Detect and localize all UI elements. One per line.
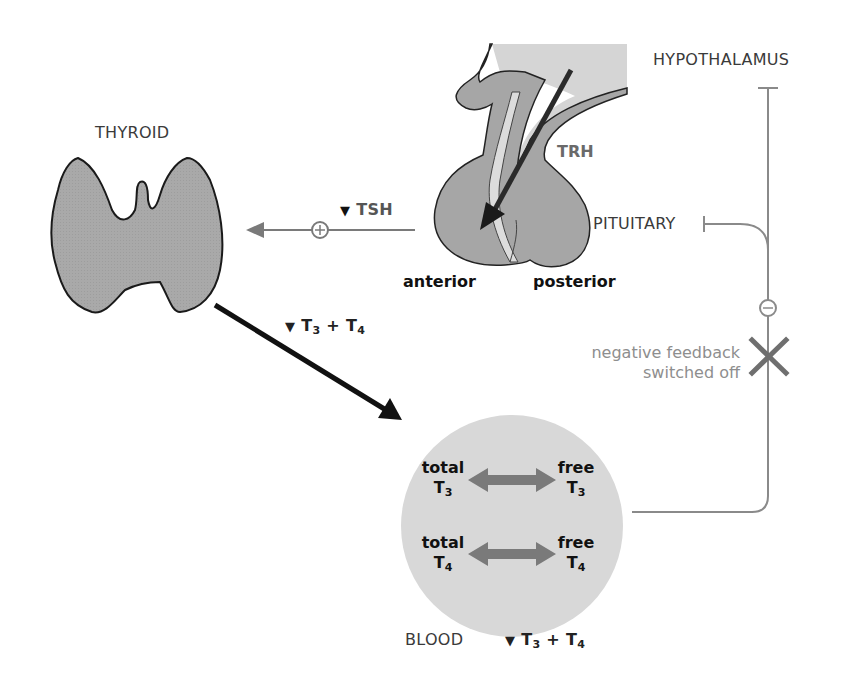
- posterior-label: posterior: [533, 274, 616, 290]
- feedback-line2: switched off: [540, 363, 740, 383]
- blood-level-label: ▼T3 + T4: [505, 632, 585, 650]
- tsh-label: ▼TSH: [340, 202, 393, 218]
- inhibition-symbol: [760, 300, 776, 316]
- thyroid-label: THYROID: [95, 125, 169, 141]
- blood-compartment: [401, 415, 623, 637]
- free-t4-label: freeT4: [554, 533, 598, 578]
- hypothalamus-label: HYPOTHALAMUS: [653, 52, 789, 68]
- thyroid-gland: [51, 158, 222, 312]
- feedback-line1: negative feedback: [540, 343, 740, 363]
- pituitary-label: PITUITARY: [593, 216, 676, 232]
- total-t3-label: totalT3: [418, 458, 468, 503]
- trh-label: TRH: [557, 144, 594, 160]
- blood-label: BLOOD: [405, 632, 463, 648]
- feedback-note: negative feedback switched off: [540, 343, 740, 383]
- thyroid-output-label: ▼T3 + T4: [285, 318, 365, 336]
- decrease-indicator-icon: ▼: [285, 319, 295, 334]
- tsh-arrow: [246, 222, 415, 238]
- total-t4-label: totalT4: [418, 533, 468, 578]
- anterior-label: anterior: [403, 274, 476, 290]
- decrease-indicator-icon: ▼: [505, 633, 515, 648]
- decrease-indicator-icon: ▼: [340, 203, 350, 218]
- feedback-line: [632, 88, 778, 512]
- free-t3-label: freeT3: [554, 458, 598, 503]
